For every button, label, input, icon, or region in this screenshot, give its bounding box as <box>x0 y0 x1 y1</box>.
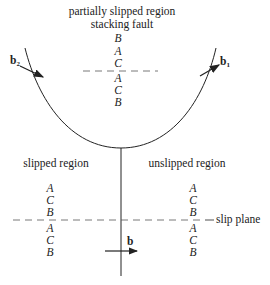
unslipped-region-label: unslipped region <box>149 158 226 170</box>
stack-letter: C <box>189 195 197 207</box>
stack-letter: A <box>189 183 196 195</box>
slip-plane-label: slip plane <box>216 214 260 226</box>
partially-slipped-region-label: partially slipped region <box>69 6 176 18</box>
stack-letter: B <box>46 247 53 259</box>
burgers-vector-label: b <box>127 236 133 248</box>
stack-letter: C <box>114 85 122 97</box>
b2-arrow-icon <box>20 66 43 77</box>
b1-label: b1 <box>220 56 230 69</box>
stack-letter: A <box>114 73 121 85</box>
stack-letter: B <box>189 247 196 259</box>
dislocation-diagram <box>0 0 270 285</box>
stacking-fault-label: stacking fault <box>91 19 153 31</box>
stack-letter: C <box>189 235 197 247</box>
stack-letter: A <box>46 183 53 195</box>
b1-arrow-icon <box>200 65 219 76</box>
stack-letter: B <box>189 207 196 219</box>
stack-letter: B <box>114 33 121 45</box>
slipped-region-label: slipped region <box>23 158 88 170</box>
stack-letter: C <box>46 235 54 247</box>
stack-letter: A <box>46 223 53 235</box>
stack-letter: B <box>46 207 53 219</box>
stack-letter: C <box>46 195 54 207</box>
stack-letter: A <box>189 223 196 235</box>
stack-letter: C <box>114 58 122 70</box>
b2-label: b2 <box>10 55 20 68</box>
stack-letter: B <box>114 97 121 109</box>
stack-letter: A <box>114 46 121 58</box>
